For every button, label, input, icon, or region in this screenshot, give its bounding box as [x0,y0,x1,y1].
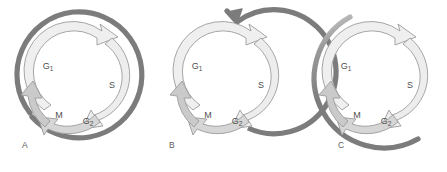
phase-label-m: M [55,110,63,120]
phase-label-g1: G1 [43,61,54,72]
phase-label-m: M [204,110,212,120]
panel-c: G1 S M G2 [298,0,447,172]
phase-label-s: S [407,80,413,90]
phase-label-s: S [258,80,264,90]
panel-letter-a: A [22,140,28,150]
cell-cycle-figure: G1 S M G2 [0,0,447,172]
panel-letter-b: B [169,140,175,150]
phase-label-g1: G1 [192,61,203,72]
panel-letter-c: C [338,140,345,150]
phase-label-m: M [353,110,361,120]
phase-label-g1: G1 [341,61,352,72]
phase-label-s: S [109,80,115,90]
